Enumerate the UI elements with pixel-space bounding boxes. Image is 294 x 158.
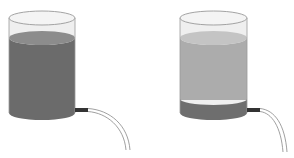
left-tube-inner <box>88 112 126 151</box>
right-liquid-surface <box>180 31 247 45</box>
left-liquid-surface <box>9 31 75 45</box>
left-nozzle <box>75 108 88 112</box>
left-dark-liquid <box>9 38 75 120</box>
right-container <box>180 11 287 152</box>
right-light-liquid <box>180 38 247 100</box>
right-tube-outer <box>260 109 287 153</box>
left-container <box>9 11 130 150</box>
diagram-svg <box>0 0 294 158</box>
right-rim <box>180 11 247 25</box>
left-rim <box>9 11 75 25</box>
right-nozzle <box>247 108 260 112</box>
diagram <box>0 0 294 158</box>
right-tube-inner <box>260 112 283 153</box>
left-tube-outer <box>88 109 130 151</box>
